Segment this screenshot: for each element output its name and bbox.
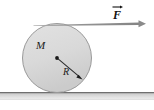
ground-surface [0, 93, 154, 100]
physics-diagram-figure: M R F [0, 0, 154, 110]
force-label: F [113, 9, 121, 21]
force-label-group: F [112, 4, 128, 22]
diagram-canvas [0, 0, 154, 110]
radius-label: R [63, 67, 69, 77]
mass-label: M [36, 40, 45, 51]
